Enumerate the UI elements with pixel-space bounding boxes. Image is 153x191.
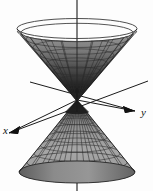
y-axis-arrowhead-overlay [123, 106, 135, 113]
y-axis-label: y [140, 106, 146, 118]
x-axis-arrowhead-overlay [9, 126, 20, 134]
cone-figure: x y [0, 0, 153, 191]
double-cone-plot: x y [0, 0, 153, 191]
lower-cone-surface [19, 100, 135, 184]
x-axis-label: x [2, 124, 8, 136]
